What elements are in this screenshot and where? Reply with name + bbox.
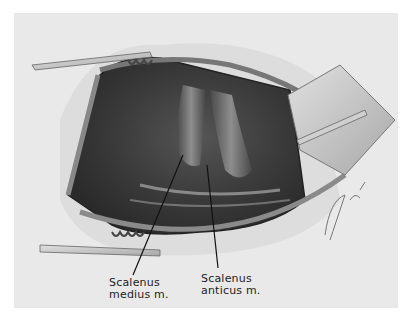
label-scalenus-anticus: Scalenus anticus m. [201,273,261,297]
label-line: medius m. [109,289,169,301]
scalenus-medius-muscle [177,85,205,166]
label-line: anticus m. [201,285,261,297]
label-scalenus-medius: Scalenus medius m. [109,277,169,301]
